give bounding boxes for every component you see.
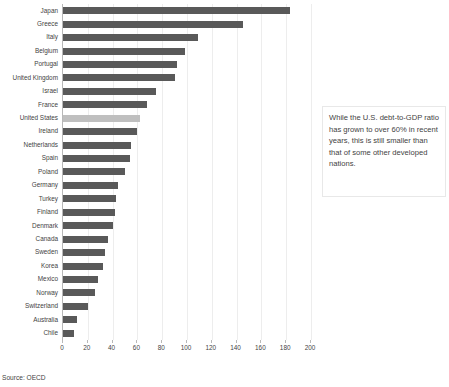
category-label: Canada [0,232,61,245]
category-label: Denmark [0,219,61,232]
bar [63,48,185,55]
x-tick-label: 180 [280,340,291,351]
x-tick-label: 40 [108,340,115,351]
bar-row [63,273,311,286]
bar-row [63,206,311,219]
bar-row [63,85,311,98]
bar-row [63,313,311,326]
category-label: Ireland [0,125,61,138]
bar [63,128,137,135]
category-label: Greece [0,17,61,30]
bar [63,61,177,68]
x-tick-label: 200 [305,340,316,351]
category-label: Norway [0,286,61,299]
bar [63,289,95,296]
category-label: France [0,98,61,111]
bar-row [63,31,311,44]
bar [63,115,140,122]
x-tick-label: 140 [230,340,241,351]
callout-box: While the U.S. debt-to-GDP ratio has gro… [322,106,446,197]
bar [63,7,290,14]
bar-row [63,98,311,111]
bar-row [63,165,311,178]
x-tick-label: 80 [158,340,165,351]
bar-row [63,219,311,232]
bar-row [63,259,311,272]
bar [63,142,131,149]
category-label: United States [0,112,61,125]
bar [63,263,103,270]
bar-row [63,286,311,299]
bar-row [63,300,311,313]
category-axis: JapanGreeceItalyBelgiumPortugalUnited Ki… [0,4,61,340]
bar [63,88,156,95]
bar-row [63,17,311,30]
bar [63,195,116,202]
x-tick-label: 20 [83,340,90,351]
bar [63,168,125,175]
category-label: Switzerland [0,300,61,313]
bar [63,236,108,243]
category-label: Mexico [0,273,61,286]
bar [63,209,115,216]
x-tick-label: 0 [60,340,64,351]
category-label: Israel [0,85,61,98]
bar-row [63,4,311,17]
bar [63,101,147,108]
bar-row [63,246,311,259]
bar [63,316,77,323]
x-tick-label: 120 [205,340,216,351]
category-label: Portugal [0,58,61,71]
source-note: Source: OECD [2,374,46,381]
bar [63,330,74,337]
bar [63,74,175,81]
category-label: Australia [0,313,61,326]
category-label: Netherlands [0,138,61,151]
bar [63,303,88,310]
bar-row [63,112,311,125]
category-label: Spain [0,152,61,165]
category-label: Turkey [0,192,61,205]
bar [63,249,105,256]
bar-row [63,192,311,205]
bar [63,276,98,283]
x-tick-label: 60 [133,340,140,351]
category-label: Finland [0,206,61,219]
bar-row [63,232,311,245]
bar-row [63,71,311,84]
category-label: Italy [0,31,61,44]
category-label: Korea [0,259,61,272]
bar-row [63,125,311,138]
callout-text: While the U.S. debt-to-GDP ratio has gro… [329,112,439,170]
category-label: Germany [0,179,61,192]
bar-series [63,4,311,340]
bar [63,222,113,229]
plot-wrapper: JapanGreeceItalyBelgiumPortugalUnited Ki… [0,4,320,349]
gridline [311,4,312,340]
bar-row [63,138,311,151]
plot-area [62,4,311,340]
bar [63,182,118,189]
category-label: Sweden [0,246,61,259]
bar-row [63,44,311,57]
category-label: Japan [0,4,61,17]
category-label: Chile [0,327,61,340]
bar [63,21,243,28]
value-axis: 020406080100120140160180200 [62,340,310,356]
bar-row [63,58,311,71]
bar-row [63,152,311,165]
bar [63,155,130,162]
category-label: United Kingdom [0,71,61,84]
category-label: Belgium [0,44,61,57]
category-label: Poland [0,165,61,178]
debt-to-gdp-bar-chart: JapanGreeceItalyBelgiumPortugalUnited Ki… [0,0,449,387]
bar-row [63,179,311,192]
x-tick-label: 160 [255,340,266,351]
bar-row [63,327,311,340]
bar [63,34,198,41]
x-tick-label: 100 [181,340,192,351]
